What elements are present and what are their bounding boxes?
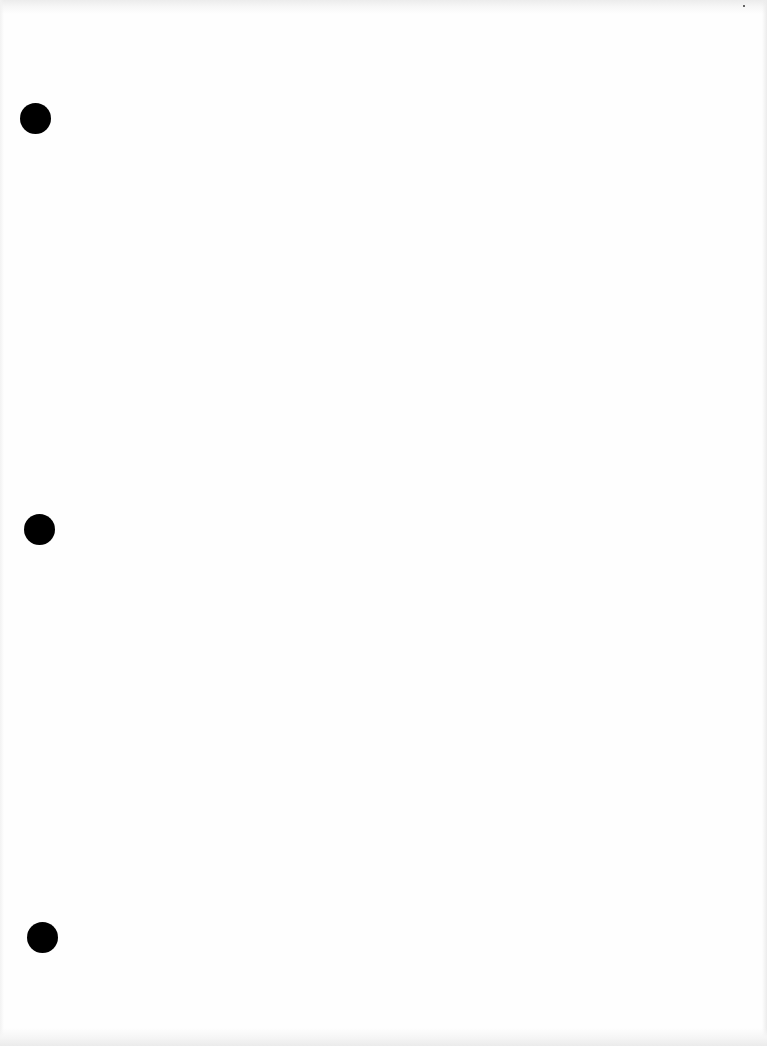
- scan-edge-bottom: [0, 1028, 767, 1046]
- scan-edge-top: [0, 0, 767, 14]
- scan-edge-right: [762, 0, 767, 1046]
- punch-hole-top: [20, 103, 51, 134]
- blank-page: [0, 0, 767, 1046]
- punch-hole-middle: [24, 514, 55, 545]
- punch-hole-bottom: [27, 922, 58, 953]
- scan-edge-left: [0, 0, 4, 1046]
- dust-speck: [743, 5, 745, 7]
